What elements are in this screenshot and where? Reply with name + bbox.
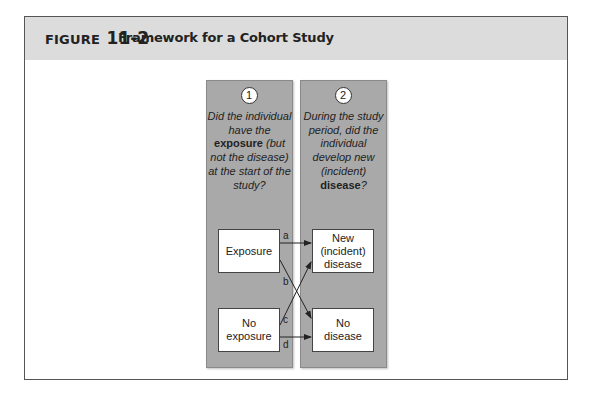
question-text: During the study period, did the individ… [303,110,383,177]
new-disease-box: New (incident) disease [312,229,374,273]
arrow-label-a: a [283,230,289,241]
step-number-1: 1 [241,87,258,104]
arrow-label-b: b [283,276,289,287]
question-emphasis: exposure [214,137,263,149]
exposure-box: Exposure [218,229,280,273]
question-text: ? [361,179,367,191]
figure-frame: FIGURE 11-2 Framework for a Cohort Study [24,16,568,380]
figure-title: Framework for a Cohort Study [118,30,334,45]
no-exposure-box: No exposure [218,308,280,352]
panel-question-1: Did the individual have the exposure (bu… [207,110,292,192]
figure-header: FIGURE 11-2 Framework for a Cohort Study [25,17,567,60]
arrow-label-c: c [283,314,288,325]
figure-keyword: FIGURE [45,32,100,47]
no-disease-box: No disease [312,308,374,352]
panel-question-2: During the study period, did the individ… [301,110,386,192]
arrow-label-d: d [283,339,289,350]
step-number-2: 2 [335,87,352,104]
question-text: Did the individual have the [208,110,292,136]
question-emphasis: disease [320,179,360,191]
